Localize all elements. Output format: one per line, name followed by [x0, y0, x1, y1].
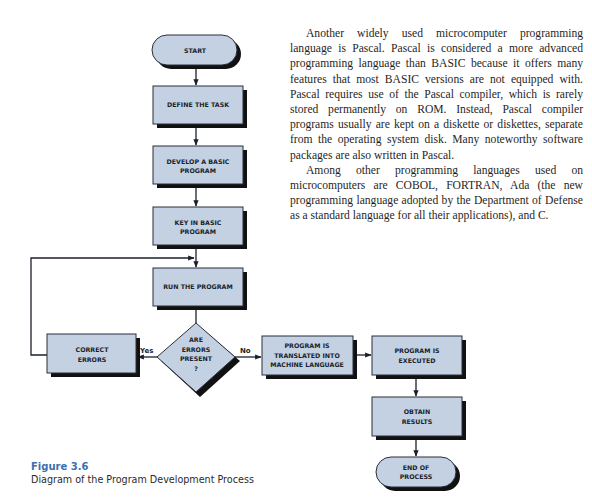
- body-text: Another widely used microcomputer progra…: [290, 26, 583, 224]
- node-keyin: KEY IN BASICPROGRAM: [153, 207, 247, 249]
- node-end: END OFPROCESS: [376, 457, 460, 491]
- node-correct: CORRECTERRORS: [47, 334, 140, 377]
- figure-number: Figure 3.6: [31, 460, 254, 473]
- paragraph-other-languages: Among other programming languages used o…: [290, 163, 583, 224]
- node-run: RUN THE PROGRAM: [153, 268, 247, 310]
- node-define: DEFINE THE TASK: [153, 86, 247, 128]
- node-start-label: START: [184, 47, 207, 54]
- svg-text:DEFINE THE TASK: DEFINE THE TASK: [167, 101, 230, 108]
- branch-no-label: No: [240, 347, 251, 355]
- paragraph-pascal: Another widely used microcomputer progra…: [290, 26, 583, 163]
- node-translate: PROGRAM ISTRANSLATED INTOMACHINE LANGUAG…: [262, 336, 357, 379]
- node-start: START: [152, 35, 241, 69]
- node-executed: PROGRAM ISEXECUTED: [372, 336, 466, 379]
- figure-caption: Figure 3.6 Diagram of the Program Develo…: [31, 460, 254, 487]
- node-develop: DEVELOP A BASICPROGRAM: [153, 146, 247, 188]
- node-decision: AREERRORSPRESENT?: [157, 323, 240, 397]
- node-results: OBTAINRESULTS: [372, 397, 466, 440]
- figure-title: Diagram of the Program Development Proce…: [31, 473, 254, 487]
- svg-text:RUN THE PROGRAM: RUN THE PROGRAM: [163, 283, 232, 290]
- branch-yes-label: Yes: [139, 347, 153, 355]
